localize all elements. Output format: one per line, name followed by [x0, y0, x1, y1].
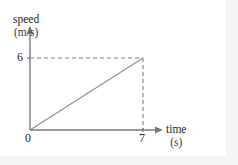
y-tick-label-6: 6 — [17, 51, 23, 64]
origin-tick-label: 0 — [25, 132, 31, 145]
x-tick-label-7: 7 — [139, 132, 145, 145]
x-axis-title-text: time — [166, 123, 186, 135]
x-axis-title: time (s) — [166, 123, 186, 149]
x-axis-arrow-icon — [155, 127, 163, 134]
x-axis-unit-text: (s) — [166, 136, 186, 149]
speed-time-graph-figure: speed (m/s) time (s) 6 7 0 — [0, 0, 238, 165]
y-axis-title-text: speed — [13, 13, 39, 25]
y-axis-title: speed (m/s) — [13, 13, 39, 39]
speed-data-line — [30, 58, 143, 130]
y-axis-unit-text: (m/s) — [13, 26, 39, 39]
